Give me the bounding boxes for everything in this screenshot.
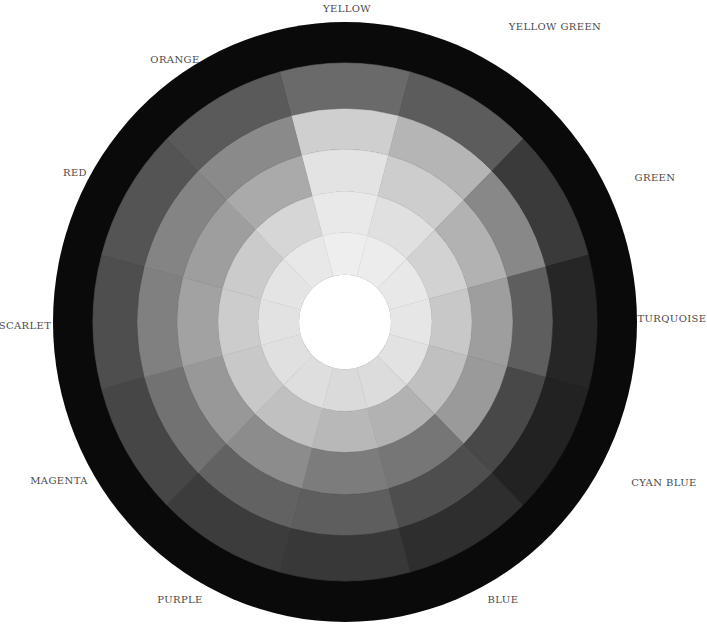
sector-cell <box>291 489 399 536</box>
sector-cell <box>280 63 410 115</box>
sector-cell <box>137 267 183 378</box>
sector-cell <box>93 255 144 389</box>
sector-cell <box>218 288 261 356</box>
sector-cell <box>429 288 472 356</box>
label-yellow: YELLOW <box>323 3 371 14</box>
sector-cell <box>291 108 399 155</box>
label-green: GREEN <box>635 172 676 183</box>
label-scarlet: SCARLET <box>0 320 51 331</box>
sector-cell <box>280 528 410 580</box>
label-red: RED <box>63 167 87 178</box>
sector-cell <box>468 277 513 366</box>
label-blue: BLUE <box>488 594 519 605</box>
value-wheel <box>0 0 707 624</box>
label-purple: PURPLE <box>157 594 203 605</box>
label-orange: ORANGE <box>150 54 199 65</box>
sector-cell <box>302 448 389 495</box>
center-white-disc <box>299 275 391 370</box>
sector-cell <box>177 277 222 366</box>
sector-cell <box>507 267 553 378</box>
label-magenta: MAGENTA <box>30 475 88 486</box>
sector-cell <box>312 408 378 452</box>
label-turquoise: TURQUOISE <box>637 313 706 324</box>
label-yellow-green: YELLOW GREEN <box>509 21 602 32</box>
label-cyan-blue: CYAN BLUE <box>631 477 696 488</box>
sector-cell <box>302 149 389 196</box>
sector-cell <box>312 192 378 236</box>
sector-cell <box>546 255 597 389</box>
